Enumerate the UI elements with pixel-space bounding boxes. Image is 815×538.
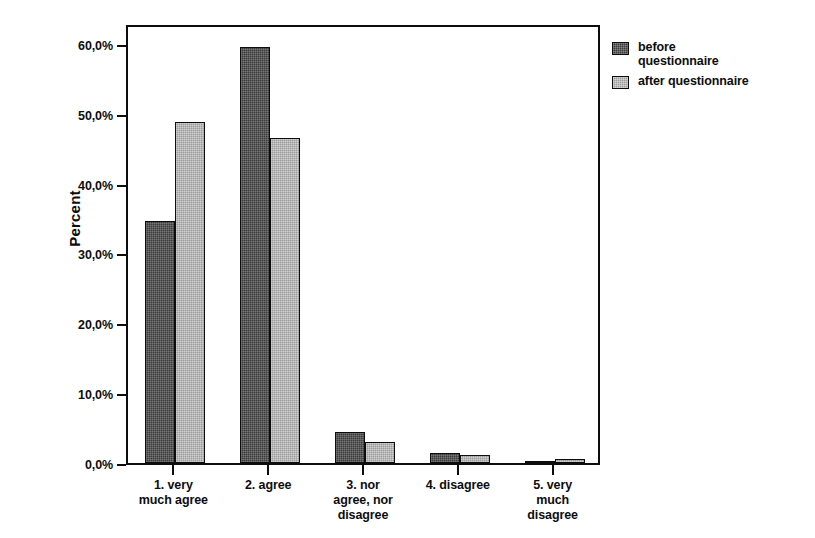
y-axis-tick-label: 10,0% — [78, 388, 113, 402]
legend-label-before-line2: questionnaire — [638, 54, 719, 68]
x-axis-tick-mark — [172, 465, 174, 475]
x-axis-label-line: 3. nor — [346, 478, 379, 492]
bar-after[interactable] — [270, 138, 300, 463]
y-axis-tick: 20,0% — [78, 318, 126, 332]
x-axis-tick-mark — [552, 465, 554, 475]
x-axis-label-line: much — [536, 493, 569, 507]
x-axis-label-line: 5. very — [533, 478, 572, 492]
y-axis-tick-mark — [117, 45, 126, 47]
x-axis-tick-mark — [457, 465, 459, 475]
bar-after[interactable] — [460, 455, 490, 463]
plot-inner — [128, 27, 598, 463]
bar-before[interactable] — [335, 432, 365, 463]
bar-after[interactable] — [365, 442, 395, 463]
y-axis-tick: 50,0% — [78, 109, 126, 123]
y-axis-tick: 0,0% — [85, 458, 126, 472]
bar-before[interactable] — [430, 453, 460, 463]
y-axis-tick: 60,0% — [78, 39, 126, 53]
y-axis-tick-label: 50,0% — [78, 109, 113, 123]
y-axis-tick-mark — [117, 324, 126, 326]
x-axis-label-line: 1. very — [154, 478, 193, 492]
x-axis-label-line: 4. disagree — [426, 478, 490, 492]
bar-after[interactable] — [555, 459, 585, 463]
legend-label-before: before questionnaire — [638, 40, 719, 68]
y-axis-ticks: 0,0%10,0%20,0%30,0%40,0%50,0%60,0% — [60, 0, 126, 538]
legend-label-before-line1: before — [638, 40, 676, 54]
plot-area — [126, 25, 600, 465]
y-axis-tick: 30,0% — [78, 248, 126, 262]
x-axis-label: 5. verymuchdisagree — [493, 478, 613, 523]
bar-group — [412, 27, 507, 463]
y-axis-tick-mark — [117, 115, 126, 117]
bar-chart: Percent 0,0%10,0%20,0%30,0%40,0%50,0%60,… — [0, 0, 815, 538]
bar-group — [128, 27, 223, 463]
y-axis-tick-label: 40,0% — [78, 179, 113, 193]
y-axis-tick-mark — [117, 394, 126, 396]
bar-before[interactable] — [240, 47, 270, 463]
legend-swatch-after-icon — [612, 76, 629, 89]
x-axis-label-line: disagree — [527, 508, 578, 522]
y-axis-tick: 10,0% — [78, 388, 126, 402]
y-axis-tick-mark — [117, 464, 126, 466]
x-axis-tick-mark — [362, 465, 364, 475]
x-axis-label-line: agree, nor — [333, 493, 392, 507]
bar-before[interactable] — [525, 461, 555, 463]
x-axis-label-line: 2. agree — [245, 478, 291, 492]
bar-after[interactable] — [175, 122, 205, 463]
x-axis-label-line: disagree — [338, 508, 389, 522]
y-axis-tick-label: 30,0% — [78, 248, 113, 262]
y-axis-tick-label: 0,0% — [85, 458, 113, 472]
y-axis-tick-mark — [117, 254, 126, 256]
x-axis-label-line: much agree — [139, 493, 208, 507]
y-axis-tick: 40,0% — [78, 179, 126, 193]
y-axis-tick-label: 20,0% — [78, 318, 113, 332]
legend-item-after[interactable]: after questionnaire — [612, 74, 807, 89]
bar-group — [318, 27, 413, 463]
legend-item-before[interactable]: before questionnaire — [612, 40, 807, 68]
chart-legend: before questionnaire after questionnaire — [612, 40, 807, 95]
bar-before[interactable] — [145, 221, 175, 463]
y-axis-tick-label: 60,0% — [78, 39, 113, 53]
y-axis-tick-mark — [117, 185, 126, 187]
x-axis-tick-mark — [267, 465, 269, 475]
legend-label-after: after questionnaire — [638, 74, 749, 88]
bar-group — [507, 27, 602, 463]
bar-group — [223, 27, 318, 463]
legend-swatch-before-icon — [612, 42, 629, 55]
